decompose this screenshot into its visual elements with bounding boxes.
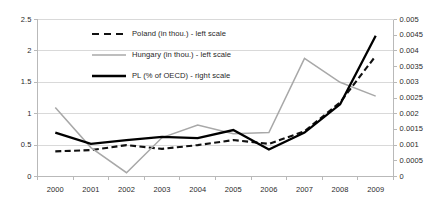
chart-container: 00.511.522.5 00.00050.0010.00150.0020.00… (0, 0, 436, 208)
x-axis-tick-label: 2000 (35, 185, 75, 194)
x-axis-tick-label: 2002 (107, 185, 147, 194)
x-axis-tick-label: 2009 (356, 185, 396, 194)
x-axis-tick-label: 2005 (213, 185, 253, 194)
legend-item-label: Poland (in thou.) - left scale (132, 29, 226, 38)
y-axis-right-tick-label: 0.0035 (400, 62, 424, 71)
grid-lines (38, 20, 394, 177)
y-axis-left-tick-label: 2.5 (0, 15, 32, 24)
y-axis-left-tick-label: 0 (0, 172, 32, 181)
x-axis-tick-label: 2006 (249, 185, 289, 194)
x-axis-tick-label: 2001 (71, 185, 111, 194)
legend-markers (92, 34, 126, 76)
y-axis-right-tick-label: 0 (400, 172, 404, 181)
y-axis-left-tick-label: 1 (0, 109, 32, 118)
y-axis-left-tick-label: 1.5 (0, 77, 32, 86)
x-tick-marks (38, 177, 394, 181)
y-axis-right-tick-label: 0.002 (400, 109, 419, 118)
y-axis-right-tick-label: 0.0005 (400, 156, 424, 165)
y-axis-right-tick-label: 0.0045 (400, 30, 424, 39)
y-axis-right-tick-label: 0.001 (400, 140, 419, 149)
legend-item-label: Hungary (in thou.) - left scale (132, 50, 231, 59)
y-axis-left-tick-label: 2 (0, 46, 32, 55)
y-axis-right-tick-label: 0.0015 (400, 124, 424, 133)
y-axis-right-tick-label: 0.005 (400, 15, 419, 24)
x-axis-tick-label: 2004 (178, 185, 218, 194)
plot-frame (38, 20, 394, 177)
y-axis-left-tick-label: 0.5 (0, 140, 32, 149)
y-axis-right-tick-label: 0.0025 (400, 93, 424, 102)
x-axis-tick-label: 2008 (320, 185, 360, 194)
x-axis-tick-label: 2003 (142, 185, 182, 194)
y-axis-right-tick-label: 0.004 (400, 46, 419, 55)
y-axis-right-tick-label: 0.003 (400, 77, 419, 86)
legend-item-label: PL (% of OECD) - right scale (132, 71, 230, 80)
x-axis-tick-label: 2007 (285, 185, 325, 194)
